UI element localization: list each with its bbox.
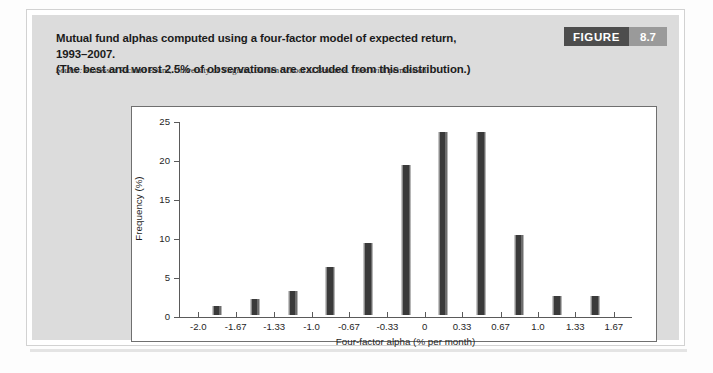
y-axis-tick: 0 <box>174 317 180 318</box>
figure-shadow <box>30 349 687 352</box>
y-axis-title: Frequency (%) <box>133 129 144 289</box>
figure-panel: Mutual fund alphas computed using a four… <box>32 15 679 340</box>
figure-source-label: Source: <box>56 65 82 75</box>
x-axis-title: Four-factor alpha (% per month) <box>179 336 632 347</box>
figure-title-line1: Mutual fund alphas computed using a four… <box>56 32 456 60</box>
chart-bar <box>326 267 335 315</box>
chart-bar <box>288 291 297 315</box>
chart-bar <box>477 132 486 315</box>
chart-bar <box>590 296 599 315</box>
x-axis-tick <box>425 312 426 318</box>
y-axis-tick-label: 15 <box>159 194 170 205</box>
chart-plot-box: Frequency (%) Four-factor alpha (% per m… <box>131 106 657 342</box>
figure-badge-word: FIGURE <box>564 27 629 46</box>
chart-bar <box>250 299 259 315</box>
figure-badge: FIGURE 8.7 <box>564 27 667 46</box>
chart-bar <box>515 235 524 315</box>
x-axis-tick <box>387 312 388 318</box>
chart-bar <box>364 243 373 315</box>
x-axis-tick <box>236 312 237 318</box>
x-axis-tick-label: -2.0 <box>190 321 207 332</box>
chart-bar <box>439 132 448 315</box>
x-axis-tick-label: 1.0 <box>531 321 544 332</box>
x-axis-tick <box>462 312 463 318</box>
x-axis-tick <box>274 312 275 318</box>
chart-bar <box>402 165 411 315</box>
x-axis-tick-label: -0.67 <box>338 321 360 332</box>
x-axis-line <box>179 317 632 318</box>
x-axis-tick <box>614 312 615 318</box>
chart-bar <box>552 296 561 315</box>
y-axis-tick: 10 <box>174 239 180 240</box>
x-axis-tick-label: 0 <box>422 321 427 332</box>
y-axis-line <box>179 122 180 318</box>
x-axis-tick <box>501 312 502 318</box>
x-axis-tick <box>312 312 313 318</box>
chart-bar <box>212 306 221 315</box>
y-axis-tick: 15 <box>174 200 180 201</box>
figure-root: Mutual fund alphas computed using a four… <box>0 0 713 373</box>
x-axis-tick-label: 0.33 <box>453 321 472 332</box>
figure-badge-number: 8.7 <box>629 27 667 46</box>
x-axis-tick-label: 1.67 <box>605 321 624 332</box>
x-axis-tick <box>575 312 576 318</box>
y-axis-tick: 20 <box>174 161 180 162</box>
figure-source-text: Professor Richard Evans, University of V… <box>82 65 428 75</box>
x-axis-tick-label: -1.0 <box>303 321 320 332</box>
x-axis-tick <box>198 312 199 318</box>
x-axis-tick <box>538 312 539 318</box>
x-axis-tick <box>349 312 350 318</box>
y-axis-tick-label: 10 <box>159 233 170 244</box>
x-axis-tick-label: -1.67 <box>225 321 247 332</box>
x-axis-tick-label: -1.33 <box>263 321 285 332</box>
figure-outer-frame: Mutual fund alphas computed using a four… <box>26 9 685 346</box>
x-axis-tick-label: -0.33 <box>376 321 398 332</box>
y-axis-tick-label: 5 <box>165 272 170 283</box>
y-axis-tick-label: 0 <box>165 311 170 322</box>
y-axis-tick: 25 <box>174 122 180 123</box>
chart-plot-area: Frequency (%) Four-factor alpha (% per m… <box>132 107 656 341</box>
y-axis-tick: 5 <box>174 278 180 279</box>
y-axis-tick-label: 20 <box>159 155 170 166</box>
x-axis-tick-label: 0.67 <box>491 321 510 332</box>
figure-source: Source: Professor Richard Evans, Univers… <box>56 65 526 76</box>
y-axis-tick-label: 25 <box>159 116 170 127</box>
x-axis-tick-label: 1.33 <box>566 321 585 332</box>
